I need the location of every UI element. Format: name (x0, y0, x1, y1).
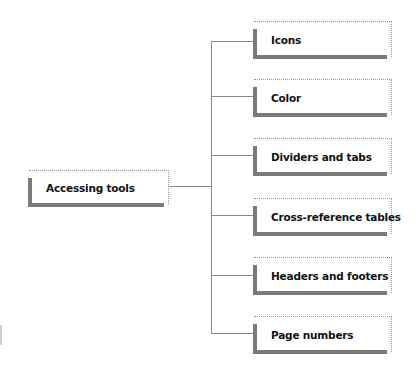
connector-branch-dividers (211, 155, 254, 156)
node-label: Headers and footers (271, 258, 388, 293)
child-node-cross-reference-tables: Cross-reference tables (254, 198, 392, 234)
connector-branch-color (211, 96, 254, 97)
node-label: Icons (271, 22, 301, 57)
child-node-icons: Icons (254, 21, 392, 57)
node-label: Dividers and tabs (271, 139, 372, 174)
connector-root-horizontal (169, 186, 211, 187)
scan-artifact-mark (0, 325, 2, 345)
connector-branch-icons (211, 41, 254, 42)
connector-branch-pagenumbers (211, 333, 254, 334)
child-node-page-numbers: Page numbers (254, 316, 392, 352)
node-label: Cross-reference tables (271, 199, 401, 234)
connector-trunk-vertical (211, 41, 212, 334)
node-label: Page numbers (271, 317, 353, 352)
root-node-accessing-tools: Accessing tools (29, 170, 169, 205)
child-node-headers-and-footers: Headers and footers (254, 257, 392, 293)
child-node-dividers-and-tabs: Dividers and tabs (254, 138, 392, 174)
child-node-color: Color (254, 79, 392, 115)
connector-branch-crossref (211, 215, 254, 216)
node-label: Accessing tools (46, 171, 135, 205)
node-label: Color (271, 80, 301, 115)
connector-branch-headers (211, 275, 254, 276)
